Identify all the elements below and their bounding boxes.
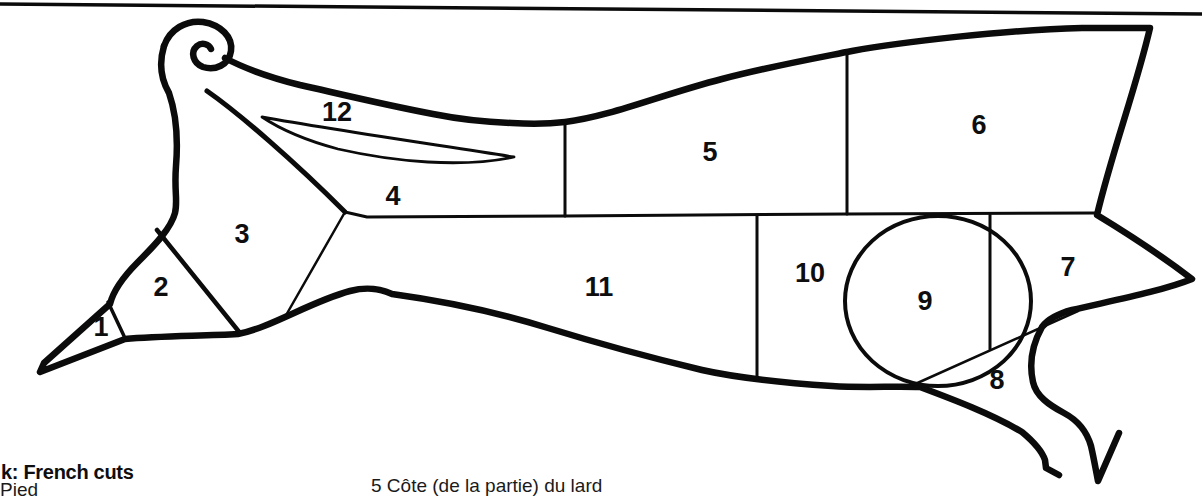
region-label-1: 1	[93, 314, 108, 341]
region-label-3: 3	[234, 221, 249, 248]
region-label-11: 11	[585, 274, 614, 301]
cut-line-horizontal	[345, 212, 1095, 217]
fillet-sliver	[262, 117, 514, 163]
region-label-2: 2	[153, 274, 168, 301]
region-label-6: 6	[971, 112, 986, 139]
pig-body-outline	[225, 28, 1192, 481]
region-label-8: 8	[989, 367, 1004, 394]
region-label-10: 10	[795, 260, 825, 287]
region-label-5: 5	[702, 139, 717, 166]
region-label-12: 12	[322, 99, 352, 126]
pig-tail-curl	[164, 22, 231, 68]
top-rule	[0, 4, 1202, 14]
caption-clipped-line-left: Pied	[0, 480, 38, 499]
region-label-9: 9	[917, 288, 932, 315]
shoulder-ellipse	[845, 216, 1031, 386]
pig-belly-outline	[40, 46, 1059, 475]
cut-line-2-3	[157, 230, 240, 333]
region-label-4: 4	[385, 183, 400, 210]
caption-clipped-line-middle: 5 Côte (de la partie) du lard	[371, 476, 602, 495]
cut-line-1-2	[108, 302, 124, 336]
region-label-7: 7	[1060, 254, 1075, 281]
